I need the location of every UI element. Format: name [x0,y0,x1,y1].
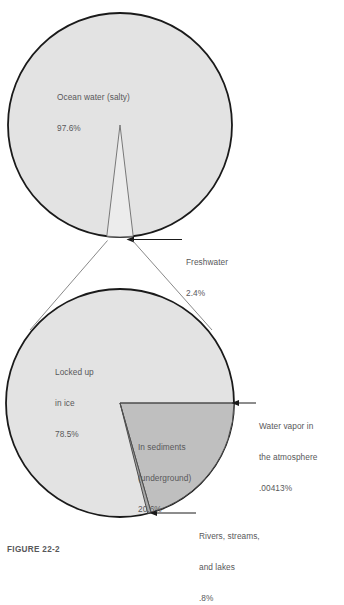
freshwater-leader [127,236,183,242]
label-ocean-water: Ocean water (salty) 97.6% [57,71,130,154]
label-rivers-streams-lakes-name-1: Rivers, streams, [199,531,260,541]
label-locked-up-in-ice-name-2: in ice [55,398,94,408]
label-rivers-streams-lakes-name-2: and lakes [199,562,260,572]
label-locked-up-in-ice-value: 78.5% [55,429,94,439]
bottom-pie-group [6,289,234,517]
figure-caption: FIGURE 22-2 [7,545,60,554]
label-in-sediments-name-2: (underground) [138,473,191,483]
label-in-sediments: In sediments (underground) 20.6% [138,421,191,535]
label-ocean-water-value: 97.6% [57,123,130,133]
label-water-vapor-value: .00413% [259,483,317,493]
label-freshwater: Freshwater 2.4% [186,236,228,319]
label-water-vapor-name-2: the atmosphere [259,452,317,462]
water-vapor-leader [232,400,257,406]
label-ocean-water-name: Ocean water (salty) [57,92,130,102]
label-rivers-streams-lakes: Rivers, streams, and lakes .8% [199,510,260,605]
label-water-vapor: Water vapor in the atmosphere .00413% [259,400,317,514]
label-in-sediments-name-1: In sediments [138,442,191,452]
label-water-vapor-name-1: Water vapor in [259,421,317,431]
label-rivers-streams-lakes-value: .8% [199,593,260,603]
label-locked-up-in-ice: Locked up in ice 78.5% [55,346,94,460]
label-freshwater-value: 2.4% [186,288,228,298]
label-in-sediments-value: 20.6% [138,504,191,514]
label-locked-up-in-ice-name-1: Locked up [55,367,94,377]
label-freshwater-name: Freshwater [186,257,228,267]
